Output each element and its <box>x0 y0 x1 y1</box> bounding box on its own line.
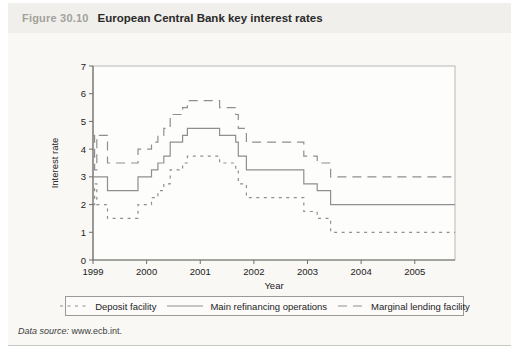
legend-item-deposit-facility: Deposit facility <box>59 301 156 312</box>
y-tick-label: 4 <box>81 144 86 155</box>
figure-title: European Central Bank key interest rates <box>98 12 323 24</box>
y-tick-label: 6 <box>81 88 86 99</box>
figure-number-label: Figure 30.10 <box>22 12 89 24</box>
data-source-note: Data source: www.ecb.int. <box>18 326 122 336</box>
legend-item-main-refinancing: Main refinancing operations <box>166 301 327 312</box>
chart-legend: Deposit facility Main refinancing operat… <box>65 296 464 316</box>
legend-label: Deposit facility <box>95 301 156 312</box>
interest-rate-chart: 012345671999200020012002200320042005Inte… <box>20 50 498 294</box>
x-tick-label: 2005 <box>404 266 425 277</box>
x-tick-label: 2001 <box>190 266 211 277</box>
y-axis-label: Interest rate <box>49 138 60 189</box>
x-tick-label: 1999 <box>82 266 103 277</box>
y-tick-label: 5 <box>81 116 86 127</box>
figure-panel: Figure 30.10 European Central Bank key i… <box>8 3 511 346</box>
data-source-label: Data source: <box>18 326 69 336</box>
y-tick-label: 0 <box>81 255 86 266</box>
y-tick-label: 7 <box>81 61 86 72</box>
legend-item-marginal-lending: Marginal lending facility <box>337 301 470 312</box>
figure-header: Figure 30.10 European Central Bank key i… <box>8 3 511 33</box>
x-tick-label: 2003 <box>297 266 318 277</box>
y-tick-label: 1 <box>81 227 86 238</box>
solid-line-sample-icon <box>166 303 204 309</box>
y-tick-label: 3 <box>81 171 86 182</box>
x-axis-label: Year <box>264 280 283 291</box>
plot-area <box>93 66 455 260</box>
dotted-line-sample-icon <box>59 303 89 309</box>
legend-label: Marginal lending facility <box>371 301 470 312</box>
legend-label: Main refinancing operations <box>210 301 327 312</box>
x-tick-label: 2000 <box>136 266 157 277</box>
data-source-value: www.ecb.int. <box>72 326 123 336</box>
x-tick-label: 2002 <box>243 266 264 277</box>
y-tick-label: 2 <box>81 199 86 210</box>
dashed-line-sample-icon <box>337 303 365 309</box>
x-tick-label: 2004 <box>351 266 372 277</box>
